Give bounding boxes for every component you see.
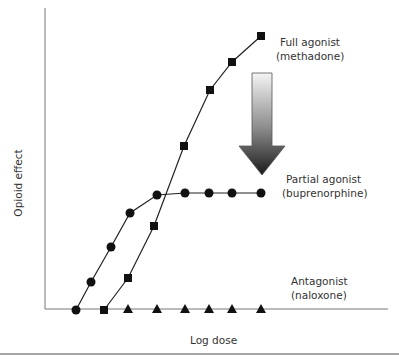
series-full-agonist [100, 32, 265, 314]
dose-response-chart: Full agonist (methadone) Partial agonist… [0, 0, 399, 359]
label-full-agonist: Full agonist [280, 36, 340, 48]
series-partial-agonist [72, 189, 266, 315]
label-antagonist-drug: (naloxone) [291, 289, 347, 301]
label-partial-agonist: Partial agonist [286, 173, 361, 185]
label-full-agonist-drug: (methadone) [276, 50, 344, 62]
label-partial-agonist-drug: (buprenorphine) [282, 187, 367, 199]
label-antagonist: Antagonist [291, 275, 348, 287]
x-axis-label: Log dose [190, 334, 237, 346]
y-axis-label: Opioid effect [12, 149, 24, 216]
down-arrow-icon [239, 73, 285, 175]
